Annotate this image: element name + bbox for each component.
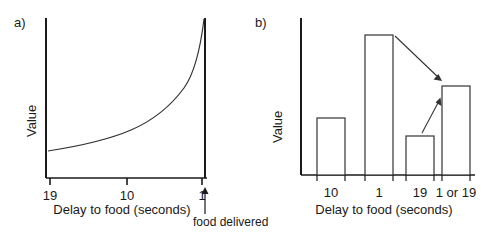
panel-b-x-axis-title: Delay to food (seconds) (291, 203, 477, 216)
panel-b-arrow-up (422, 98, 442, 134)
panel-a-xtick-label-19: 19 (30, 189, 70, 202)
panel-a-xtick-label-10: 10 (107, 189, 147, 202)
panel-a-discounting-curve (48, 19, 204, 151)
panel-b-bar-1 (365, 35, 393, 175)
panel-b-xtick-label-10: 10 (311, 186, 351, 199)
panel-b-bar-19 (406, 136, 434, 175)
panel-b-xtick-label-1-or-19: 1 or 19 (429, 186, 483, 199)
discounting-figure: a) Value 19 10 1 Delay to food (seconds) (0, 0, 487, 233)
panel-b-bar-10 (317, 118, 345, 175)
panel-a-xtick-label-1: 1 (182, 189, 222, 202)
panel-a-x-axis-title: Delay to food (seconds) (36, 203, 208, 216)
panel-b: b) Value (243, 0, 487, 233)
panel-b-bar-1-or-19 (442, 86, 470, 175)
panel-a: a) Value 19 10 1 Delay to food (seconds) (0, 0, 244, 233)
panel-b-xtick-label-1: 1 (359, 186, 399, 199)
panel-b-arrow-down (395, 36, 442, 81)
